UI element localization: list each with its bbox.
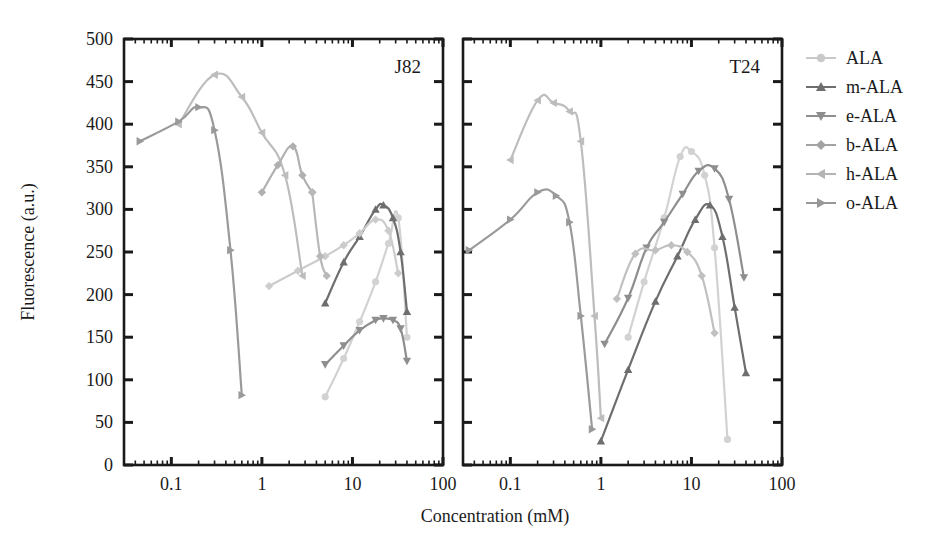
data-point-marker bbox=[641, 278, 648, 285]
data-point-marker bbox=[396, 248, 404, 256]
series-m-ala bbox=[597, 201, 750, 445]
y-tick-label: 300 bbox=[86, 199, 113, 219]
series-ala bbox=[322, 211, 411, 400]
x-tick-label: 0.1 bbox=[160, 474, 183, 494]
chart-figure: 0.1110100050100150200250300350400450500J… bbox=[0, 0, 950, 537]
series-line bbox=[269, 219, 398, 286]
data-point-marker bbox=[742, 369, 750, 377]
data-point-marker bbox=[322, 393, 329, 400]
data-point-marker bbox=[403, 307, 411, 315]
data-point-marker bbox=[339, 258, 347, 266]
legend-label: h-ALA bbox=[846, 164, 898, 184]
series-b-ala bbox=[613, 241, 719, 337]
data-point-marker bbox=[534, 188, 542, 196]
data-point-marker bbox=[724, 436, 731, 443]
y-tick-label: 200 bbox=[86, 285, 113, 305]
data-point-marker bbox=[403, 334, 410, 341]
legend-item-m-ala[interactable]: m-ALA bbox=[806, 77, 903, 97]
data-point-marker bbox=[613, 295, 621, 303]
series-group bbox=[466, 95, 750, 445]
diamond-marker-icon bbox=[816, 140, 826, 150]
y-tick-label: 50 bbox=[95, 412, 113, 432]
series-line bbox=[140, 107, 242, 395]
data-point-marker bbox=[265, 282, 273, 290]
data-point-marker bbox=[701, 172, 708, 179]
data-point-marker bbox=[258, 188, 266, 196]
x-tick-label: 100 bbox=[430, 474, 457, 494]
x-tick-label: 10 bbox=[682, 474, 700, 494]
data-point-marker bbox=[730, 303, 738, 311]
plot-panel-j82: 0.1110100050100150200250300350400450500J… bbox=[86, 29, 457, 494]
data-point-marker bbox=[298, 171, 306, 179]
legend-item-h-ala[interactable]: h-ALA bbox=[806, 164, 898, 184]
series-e-ala bbox=[321, 315, 411, 369]
legend-label: b-ALA bbox=[846, 135, 898, 155]
data-point-marker bbox=[316, 252, 324, 260]
data-point-marker bbox=[340, 355, 347, 362]
y-tick-label: 450 bbox=[86, 72, 113, 92]
y-tick-label: 0 bbox=[104, 455, 113, 475]
data-point-marker bbox=[718, 232, 726, 240]
y-tick-label: 500 bbox=[86, 29, 113, 49]
series-b-ala-tail bbox=[308, 188, 331, 280]
data-point-marker bbox=[740, 274, 748, 282]
data-point-marker bbox=[137, 137, 145, 145]
x-tick-label: 10 bbox=[343, 474, 361, 494]
data-point-marker bbox=[677, 153, 684, 160]
legend-label: ALA bbox=[846, 48, 883, 68]
series-line bbox=[469, 189, 592, 429]
series-o-ala bbox=[466, 188, 597, 433]
series-b-ala bbox=[265, 215, 403, 290]
data-point-marker bbox=[195, 103, 203, 111]
series-line bbox=[605, 165, 744, 344]
legend-item-e-ala[interactable]: e-ALA bbox=[806, 106, 897, 126]
y-tick-label: 100 bbox=[86, 370, 113, 390]
data-point-marker bbox=[394, 269, 402, 277]
legend-label: e-ALA bbox=[846, 106, 897, 126]
data-point-marker bbox=[624, 295, 632, 303]
x-tick-label: 100 bbox=[769, 474, 796, 494]
series-ala bbox=[625, 147, 731, 443]
legend-label: m-ALA bbox=[846, 77, 903, 97]
data-point-marker bbox=[323, 272, 331, 280]
data-point-marker bbox=[356, 318, 363, 325]
data-point-marker bbox=[597, 437, 605, 445]
data-point-marker bbox=[625, 334, 632, 341]
x-axis-label: Concentration (mM) bbox=[421, 506, 569, 527]
figure-root: 0.1110100050100150200250300350400450500J… bbox=[0, 0, 950, 537]
data-point-marker bbox=[673, 252, 681, 260]
triangle-right-marker-icon bbox=[817, 198, 826, 208]
data-point-marker bbox=[372, 278, 379, 285]
data-point-marker bbox=[725, 196, 733, 204]
series-h-ala bbox=[174, 71, 305, 280]
x-tick-label: 0.1 bbox=[499, 474, 522, 494]
legend: ALAm-ALAe-ALAb-ALAh-ALAo-ALA bbox=[806, 48, 903, 213]
series-b-ala-branch bbox=[258, 142, 317, 196]
y-tick-label: 150 bbox=[86, 327, 113, 347]
panel-title: T24 bbox=[729, 56, 760, 77]
data-point-marker bbox=[624, 365, 632, 373]
data-point-marker bbox=[403, 358, 411, 366]
legend-item-b-ala[interactable]: b-ALA bbox=[806, 135, 898, 155]
y-tick-label: 250 bbox=[86, 242, 113, 262]
y-axis-label: Fluorescence (a.u.) bbox=[18, 183, 39, 320]
panel-title: J82 bbox=[395, 56, 421, 77]
data-point-marker bbox=[710, 329, 718, 337]
series-o-ala bbox=[137, 103, 246, 399]
data-point-marker bbox=[321, 361, 329, 369]
series-line bbox=[312, 192, 326, 275]
data-point-marker bbox=[321, 299, 329, 307]
series-group bbox=[137, 71, 412, 401]
series-line bbox=[628, 147, 727, 439]
legend-item-o-ala[interactable]: o-ALA bbox=[806, 193, 898, 213]
x-tick-label: 1 bbox=[257, 474, 266, 494]
y-axis-ticks bbox=[463, 39, 782, 465]
triangle-left-marker-icon bbox=[816, 169, 825, 179]
data-point-marker bbox=[396, 325, 404, 333]
circle-marker-icon bbox=[817, 54, 826, 63]
data-point-marker bbox=[698, 272, 706, 280]
legend-item-ala[interactable]: ALA bbox=[806, 48, 883, 68]
plot-panel-t24: 0.1110100T24 bbox=[463, 39, 796, 494]
data-point-marker bbox=[651, 297, 659, 305]
data-point-marker bbox=[371, 215, 379, 223]
